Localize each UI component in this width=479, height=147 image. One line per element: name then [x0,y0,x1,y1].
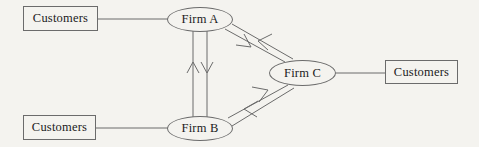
node-label: Customers [394,66,449,79]
node-label: Customers [33,12,88,25]
node-label: Firm C [284,67,321,80]
node-customers-right[interactable]: Customers [385,60,458,84]
diagram-canvas: Customers Firm A Firm C Customers Custom… [0,0,479,147]
edge-firm-b-to-firm-c-arrowhead [252,87,268,102]
node-customers-bottom-left[interactable]: Customers [23,115,96,140]
node-firm-c[interactable]: Firm C [269,60,336,86]
node-label: Firm A [182,13,219,26]
node-firm-a[interactable]: Firm A [167,7,233,32]
edge-firm-c-to-firm-b-line [232,88,294,126]
edge-firm-c-to-firm-a-arrowhead [258,34,272,50]
node-label: Customers [32,121,87,134]
edge-firm-a-to-firm-c-line [225,29,285,62]
node-label: Firm B [182,122,219,135]
edge-firm-c-to-firm-a-line [232,24,293,59]
node-firm-b[interactable]: Firm B [167,116,233,141]
node-customers-top-left[interactable]: Customers [23,6,98,31]
